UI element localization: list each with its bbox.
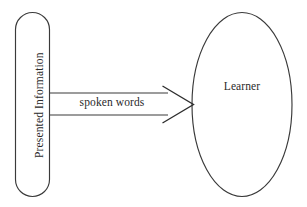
presented-information-label: Presented Information [33, 52, 45, 158]
arrowhead-icon [163, 86, 194, 123]
spoken-words-label: spoken words [62, 96, 162, 108]
diagram-canvas: Presented Information spoken words Learn… [0, 0, 307, 207]
learner-label: Learner [192, 80, 292, 92]
learner-ellipse[interactable] [192, 13, 292, 197]
